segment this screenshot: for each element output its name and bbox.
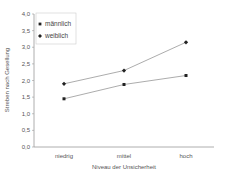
square-marker-icon bbox=[185, 74, 188, 77]
line-chart: 0,00,51,01,52,02,53,03,54,0niedrigmittel… bbox=[0, 0, 231, 182]
square-marker-icon bbox=[63, 97, 66, 100]
square-marker-icon bbox=[123, 83, 126, 86]
y-tick-label: 3,0 bbox=[22, 44, 31, 50]
y-tick-label: 3,5 bbox=[22, 28, 31, 34]
series-line-weiblich bbox=[64, 42, 186, 84]
y-tick-label: 2,5 bbox=[22, 61, 31, 67]
legend-label: männlich bbox=[45, 20, 71, 27]
diamond-marker-icon bbox=[122, 68, 126, 72]
x-tick-label: mittel bbox=[117, 153, 131, 159]
x-tick-label: hoch bbox=[179, 153, 192, 159]
legend-square-icon bbox=[39, 23, 42, 26]
y-tick-label: 0,5 bbox=[22, 127, 31, 133]
y-tick-label: 2,0 bbox=[22, 78, 31, 84]
y-axis-label: Streben nach Gesellung bbox=[4, 48, 10, 112]
legend-label: weiblich bbox=[44, 32, 69, 39]
x-axis-label: Niveau der Unsicherheit bbox=[92, 164, 156, 170]
y-tick-label: 1,5 bbox=[22, 94, 31, 100]
legend-box bbox=[36, 13, 76, 44]
y-tick-label: 1,0 bbox=[22, 111, 31, 117]
series-line-männlich bbox=[64, 76, 186, 99]
diamond-marker-icon bbox=[184, 40, 188, 44]
y-tick-label: 0,0 bbox=[22, 144, 31, 150]
y-tick-label: 4,0 bbox=[22, 11, 31, 17]
x-tick-label: niedrig bbox=[55, 153, 73, 159]
diamond-marker-icon bbox=[62, 82, 66, 86]
